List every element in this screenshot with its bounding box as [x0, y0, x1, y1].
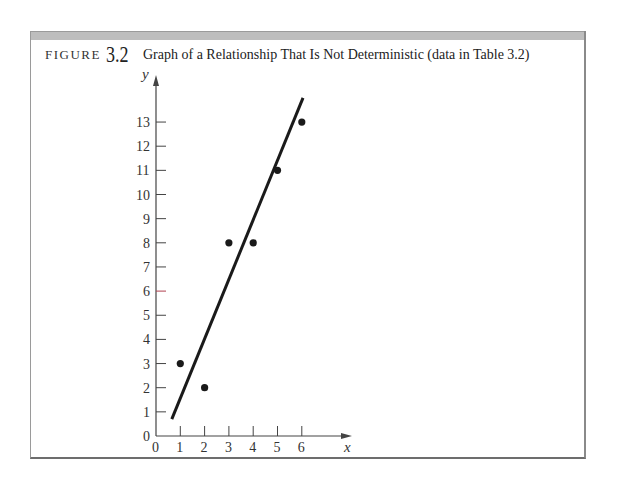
y-axis-label: y	[140, 66, 149, 82]
x-tick-label: 1	[176, 440, 183, 455]
data-point	[250, 239, 257, 246]
y-tick-label: 11	[136, 163, 149, 178]
fitted-line	[172, 98, 303, 419]
x-tick-label: 3	[225, 440, 232, 455]
x-tick-label: 6	[298, 440, 305, 455]
y-tick-label: 10	[136, 188, 150, 203]
y-tick-label: 6	[143, 284, 150, 299]
data-points	[177, 118, 306, 391]
y-tick-label: 0	[143, 429, 150, 444]
y-tick-label: 12	[136, 139, 150, 154]
y-tick-label: 5	[143, 308, 150, 323]
y-axis-arrow-icon	[153, 75, 159, 86]
y-tick-label: 2	[143, 381, 150, 396]
y-tick-label: 8	[143, 236, 150, 251]
y-tick-label: 1	[143, 405, 150, 420]
y-tick-label: 7	[143, 260, 150, 275]
y-tick-label: 13	[136, 115, 150, 130]
data-point	[298, 118, 305, 125]
axes: yx	[140, 66, 352, 455]
x-axis-label: x	[343, 439, 351, 455]
regression-line	[172, 98, 303, 419]
y-axis-ticks: 012345678910111213	[136, 115, 166, 444]
x-tick-label: 2	[201, 440, 208, 455]
x-axis-ticks: 0123456	[152, 426, 305, 455]
x-tick-label: 4	[249, 440, 256, 455]
data-point	[225, 239, 232, 246]
x-tick-label: 0	[152, 440, 159, 455]
data-point	[177, 360, 184, 367]
x-tick-label: 5	[274, 440, 281, 455]
scatter-chart: yx 012345678910111213 0123456	[0, 0, 617, 484]
y-tick-label: 3	[143, 357, 150, 372]
y-tick-label: 4	[143, 332, 150, 347]
y-tick-label: 9	[143, 212, 150, 227]
data-point	[274, 167, 281, 174]
data-point	[201, 384, 208, 391]
